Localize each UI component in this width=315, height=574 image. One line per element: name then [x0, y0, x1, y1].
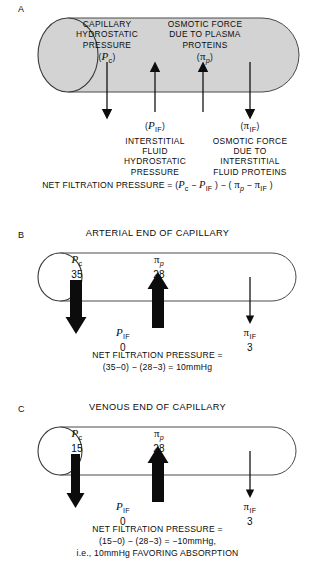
label-line: PRESSURE [124, 167, 186, 177]
label-line: CAPILLARY [76, 19, 138, 29]
label-line: PROTEINS [168, 40, 243, 50]
label-line: DUE TO [213, 146, 288, 156]
label-line: HYDROSTATIC [76, 29, 138, 39]
force-label-pc-c: Pc 15 [71, 428, 83, 454]
symbol-pif: PIF [116, 501, 130, 517]
force-value-pi-p: 28 [153, 444, 165, 454]
label-line: FLUID [124, 146, 186, 156]
panel-b-result-line-1: NET FILTRATION PRESSURE = [0, 350, 315, 360]
label-plasma-osmotic-force: OSMOTIC FORCE DUE TO PLASMA PROTEINS (πp… [168, 19, 243, 67]
label-line: OSMOTIC FORCE [168, 19, 243, 29]
symbol-pi-if: (πIF) [213, 120, 288, 136]
force-value-pc: 35 [71, 270, 83, 280]
label-line: DUE TO PLASMA [168, 29, 243, 39]
force-value-pi-p: 28 [153, 270, 165, 280]
label-capillary-hydrostatic-pressure: CAPILLARY HYDROSTATIC PRESSURE (Pc) [76, 19, 138, 67]
capillary-body-c [60, 427, 296, 475]
force-label-pi-p-c: πp 28 [153, 428, 165, 454]
label-line: FLUID PROTEINS [213, 167, 288, 177]
symbol-pi-p: πp [153, 428, 165, 444]
force-label-pc-b: Pc 35 [71, 254, 83, 280]
force-value-pc: 15 [71, 444, 83, 454]
force-label-pi-p-b: πp 28 [153, 254, 165, 280]
label-line: INTERSTITIAL [124, 136, 186, 146]
label-line: INTERSTITIAL [213, 156, 288, 166]
symbol-pif: (PIF) [124, 120, 186, 136]
symbol-pi-if: πIF [244, 327, 257, 343]
symbol-pc: Pc [71, 428, 83, 444]
panel-c-result-line-1: NET FILTRATION PRESSURE = [0, 524, 315, 534]
net-filtration-pressure-equation: NET FILTRATION PRESSURE = (Pc − PIF ) − … [0, 178, 315, 193]
panel-c-result-line-2: (15−0) − (28−3) = −10mmHg, [0, 536, 315, 546]
label-line: PRESSURE [76, 40, 138, 50]
label-line: OSMOTIC FORCE [213, 136, 288, 146]
symbol-pif: PIF [116, 327, 130, 343]
panel-b: B ARTERIAL END OF CAPILLARY Pc 35 πp 28 … [0, 222, 315, 377]
panel-c-result-line-3: i.e., 10mmHg FAVORING ABSORPTION [0, 548, 315, 558]
label-line: HYDROSTATIC [124, 156, 186, 166]
symbol-pi-p: πp [153, 254, 165, 270]
panel-b-result-line-2: (35−0) − (28−3) = 10mmHg [0, 362, 315, 372]
symbol-pc: Pc [71, 254, 83, 270]
capillary-body-b [60, 253, 296, 301]
label-interstitial-fluid-hydrostatic-pressure: (PIF) INTERSTITIAL FLUID HYDROSTATIC PRE… [124, 120, 186, 177]
symbol-pc: (Pc) [76, 51, 138, 67]
label-interstitial-fluid-osmotic-force: (πIF) OSMOTIC FORCE DUE TO INTERSTITIAL … [213, 120, 288, 177]
symbol-pi-p: (πp) [168, 51, 243, 67]
panel-c: C VENOUS END OF CAPILLARY Pc 15 πp 28 PI… [0, 396, 315, 574]
panel-a: A CAPILLARY HYD [0, 0, 315, 200]
symbol-pi-if: πIF [244, 501, 257, 517]
